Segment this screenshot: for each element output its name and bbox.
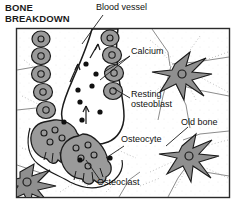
osteocyte-lower-left	[4, 164, 56, 206]
label-old-bone: Old bone	[181, 117, 218, 127]
bone-breakdown-figure: BONE BREAKDOWN	[0, 0, 248, 211]
label-blood-vessel: Blood vessel	[96, 2, 147, 12]
label-osteocyte: Osteocyte	[121, 134, 162, 144]
label-osteoclast: Osteoclast	[97, 177, 140, 187]
label-resting-osteoblast: Resting osteoblast	[131, 89, 172, 109]
label-calcium: Calcium	[131, 46, 164, 56]
